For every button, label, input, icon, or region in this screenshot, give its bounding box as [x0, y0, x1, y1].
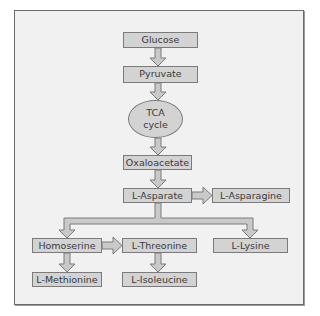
arrow-down-icon	[59, 253, 75, 272]
arrow-down-icon	[150, 170, 166, 188]
tca-label-line1: TCA	[146, 107, 164, 119]
arrow-right-icon	[192, 187, 212, 204]
branch-arrow-icon	[59, 203, 258, 238]
arrow-down-icon	[150, 83, 166, 100]
node-homoserine: Homoserine	[32, 238, 102, 253]
node-l-isoleucine: L-Isoleucine	[122, 272, 197, 287]
node-tca-cycle: TCA cycle	[128, 100, 183, 138]
node-l-asparagine: L-Asparagine	[212, 188, 290, 203]
arrow-right-icon	[102, 237, 122, 254]
node-glucose: Glucose	[123, 32, 198, 48]
node-pyruvate: Pyruvate	[123, 66, 198, 83]
node-l-asparate: L-Asparate	[123, 188, 192, 203]
node-l-methionine: L-Methionine	[32, 272, 102, 287]
arrow-down-icon	[150, 138, 166, 155]
arrow-down-icon	[150, 48, 166, 66]
node-l-lysine: L-Lysine	[213, 238, 288, 253]
node-l-threonine: L-Threonine	[122, 238, 197, 253]
tca-label-line2: cycle	[143, 119, 168, 131]
arrow-down-icon	[150, 253, 166, 272]
node-oxaloacetate: Oxaloacetate	[123, 155, 192, 170]
